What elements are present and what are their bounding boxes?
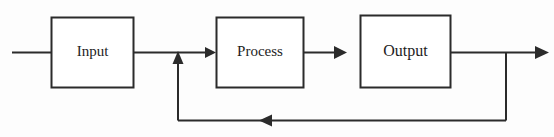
- flowchart-diagram: Input Process Output: [0, 0, 554, 137]
- arrowhead-into-process: [205, 47, 216, 58]
- arrowhead-output-terminal: [535, 46, 549, 59]
- node-label-input: Input: [51, 41, 134, 61]
- node-label-process: Process: [216, 41, 304, 61]
- flowchart-canvas: [0, 0, 554, 137]
- node-label-output: Output: [360, 40, 451, 62]
- arrowhead-feedback-left: [259, 115, 272, 127]
- arrowhead-into-output: [334, 46, 347, 59]
